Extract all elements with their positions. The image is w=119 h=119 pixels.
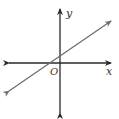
coordinate-diagram: y x O xyxy=(0,0,119,119)
x-axis-label: x xyxy=(106,65,113,78)
diagram-svg: y x O xyxy=(0,0,119,119)
origin-label: O xyxy=(50,66,58,77)
y-axis-label: y xyxy=(65,7,73,20)
